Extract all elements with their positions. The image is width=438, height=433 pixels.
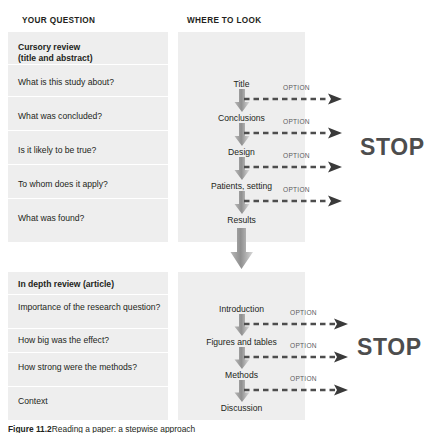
figure-caption-text: Reading a paper: a stepwise approach [52, 424, 195, 433]
figure-stepwise-reading: YOUR QUESTION WHERE TO LOOK Cursory revi… [0, 0, 438, 433]
stop-label-indepth: STOP [357, 334, 422, 361]
option-label: OPTION [290, 375, 317, 382]
row-separator [8, 130, 168, 131]
figure-caption-number: Figure 11.2 [8, 424, 52, 433]
option-label: OPTION [290, 342, 317, 349]
option-branch-arrow [244, 160, 344, 174]
step-discussion: Discussion [178, 403, 305, 413]
figure-caption: Figure 11.2Reading a paper: a stepwise a… [8, 424, 432, 433]
section-title-cursory-line2: (title and abstract) [18, 53, 164, 64]
step-figures-and-tables: Figures and tables [178, 337, 305, 347]
question-to-whom-does-it-apply: To whom does it apply? [18, 179, 164, 190]
row-separator [8, 294, 168, 295]
option-branch-arrow [244, 383, 350, 397]
question-what-was-found: What was found? [18, 213, 164, 224]
option-label: OPTION [283, 186, 310, 193]
question-what-is-this-study-about: What is this study about? [18, 77, 164, 88]
question-how-strong-were-the-methods: How strong were the methods? [18, 362, 164, 373]
question-importance-of-research-question: Importance of the research question? [18, 302, 164, 313]
option-branch-arrow [244, 92, 344, 106]
stop-label-cursory: STOP [360, 134, 425, 161]
question-how-big-was-the-effect: How big was the effect? [18, 335, 164, 346]
step-introduction: Introduction [178, 304, 305, 314]
row-separator [8, 96, 168, 97]
column-header-where-to-look: WHERE TO LOOK [187, 16, 261, 25]
row-separator [8, 328, 168, 329]
row-separator [8, 386, 168, 387]
row-separator [8, 164, 168, 165]
option-label: OPTION [283, 84, 310, 91]
section-title-cursory-line1: Cursory review [18, 42, 164, 53]
option-label: OPTION [290, 309, 317, 316]
column-header-your-question: YOUR QUESTION [22, 16, 95, 25]
option-branch-arrow [244, 194, 344, 208]
question-what-was-concluded: What was concluded? [18, 111, 164, 122]
step-results: Results [178, 215, 305, 225]
question-is-it-likely-to-be-true: Is it likely to be true? [18, 145, 164, 156]
option-label: OPTION [283, 152, 310, 159]
section-title-indepth: In depth review (article) [18, 279, 164, 290]
option-branch-arrow [244, 126, 344, 140]
row-separator [8, 352, 168, 353]
question-context: Context [18, 396, 164, 407]
down-arrow-large-icon [230, 228, 254, 270]
row-separator [8, 198, 168, 199]
option-branch-arrow [244, 350, 350, 364]
option-label: OPTION [283, 118, 310, 125]
option-branch-arrow [244, 317, 350, 331]
step-methods: Methods [178, 370, 305, 380]
